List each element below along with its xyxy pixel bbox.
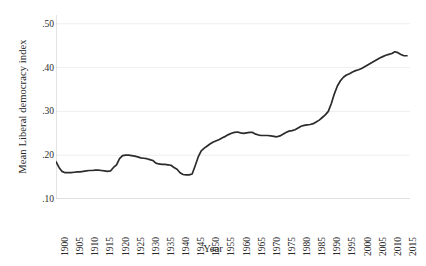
x-axis-title: Year — [0, 243, 426, 254]
y-tick-label-.10: .10 — [32, 194, 54, 204]
y-axis-title-text: Mean Liberal democracy index — [17, 39, 28, 173]
x-axis-tick-labels: 1900190519101915192019251930193519401945… — [56, 201, 410, 241]
data-line-series-0 — [56, 52, 407, 175]
y-tick-label-.40: .40 — [32, 63, 54, 73]
y-tick-label-.20: .20 — [32, 150, 54, 160]
y-axis-tick-labels: .50.40.30.20.10 — [28, 0, 54, 266]
y-tick-label-.50: .50 — [32, 19, 54, 29]
gridlines — [56, 24, 410, 199]
line-chart-svg — [56, 15, 410, 199]
y-tick-label-.30: .30 — [32, 106, 54, 116]
plot-area — [56, 15, 410, 199]
chart-container: Mean Liberal democracy index .50.40.30.2… — [0, 0, 426, 266]
